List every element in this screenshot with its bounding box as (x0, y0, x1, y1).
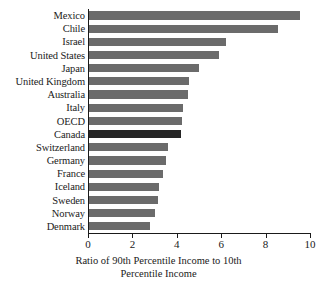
category-label: United States (0, 50, 85, 61)
category-label: OECD (0, 116, 85, 127)
bar-chart: Mexico Chile Israel United States Japan … (0, 0, 317, 281)
bar (88, 170, 163, 178)
category-label: Germany (0, 155, 85, 166)
category-label: Canada (0, 129, 85, 140)
bar (88, 77, 189, 85)
category-label: France (0, 168, 85, 179)
bar-row (88, 49, 310, 62)
category-label: Australia (0, 89, 85, 100)
x-axis-line (88, 233, 311, 234)
category-label: Chile (0, 23, 85, 34)
x-axis-title: Ratio of 90th Percentile Income to 10th … (0, 254, 317, 280)
x-axis-tick-label: 8 (251, 238, 281, 251)
x-axis-tick-label: 6 (206, 238, 236, 251)
bar-row (88, 220, 310, 233)
bar (88, 209, 155, 217)
bar (88, 64, 199, 72)
bar-row (88, 9, 310, 22)
category-label: Israel (0, 36, 85, 47)
category-label: Denmark (0, 221, 85, 232)
bar-row (88, 141, 310, 154)
category-label: United Kingdom (0, 76, 85, 87)
bar-row (88, 193, 310, 206)
category-label: Norway (0, 208, 85, 219)
category-label: Sweden (0, 195, 85, 206)
category-label: Iceland (0, 181, 85, 192)
bar-row (88, 128, 310, 141)
bar (88, 25, 278, 33)
bar (88, 51, 219, 59)
x-axis-tick-label: 2 (117, 238, 147, 251)
x-axis-tick-label: 10 (295, 238, 317, 251)
x-axis-title-line2: Percentile Income (0, 267, 317, 280)
y-axis-line (88, 9, 89, 233)
bar-canada-highlight (88, 130, 181, 138)
bar-row (88, 88, 310, 101)
bar (88, 222, 150, 230)
bar-row (88, 180, 310, 193)
bar-row (88, 62, 310, 75)
bar (88, 183, 159, 191)
bar (88, 11, 300, 19)
bar-row (88, 154, 310, 167)
bar (88, 117, 182, 125)
category-axis-labels: Mexico Chile Israel United States Japan … (0, 9, 85, 233)
x-axis-title-line1: Ratio of 90th Percentile Income to 10th (75, 255, 241, 266)
bar-row (88, 114, 310, 127)
bar (88, 104, 183, 112)
bar-rows (88, 9, 310, 233)
bar-row (88, 35, 310, 48)
bar (88, 38, 226, 46)
bar-row (88, 75, 310, 88)
bar-row (88, 207, 310, 220)
category-label: Italy (0, 102, 85, 113)
plot-area (88, 9, 310, 233)
bar-row (88, 167, 310, 180)
x-axis-tick-label: 4 (162, 238, 192, 251)
bar-row (88, 101, 310, 114)
x-axis-tick-label: 0 (73, 238, 103, 251)
bar (88, 143, 168, 151)
category-label: Mexico (0, 10, 85, 21)
category-label: Switzerland (0, 142, 85, 153)
category-label: Japan (0, 63, 85, 74)
bar (88, 90, 188, 98)
bar (88, 196, 158, 204)
bar-row (88, 22, 310, 35)
bar (88, 156, 166, 164)
